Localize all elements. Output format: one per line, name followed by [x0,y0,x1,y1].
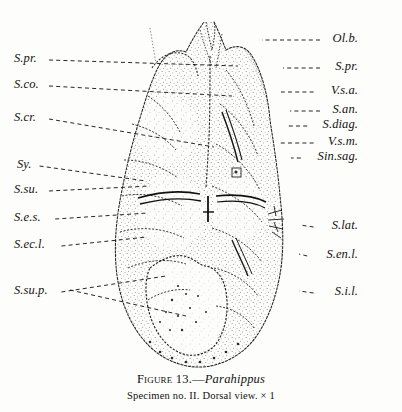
label-s-an: S.an. [0,102,358,117]
label-s-i-l: S.i.l. [0,284,358,299]
label-ol-b: Ol.b. [0,31,358,46]
label-s-diag: S.diag. [0,117,358,132]
label-sin-sag: Sin.sag. [0,149,358,164]
caption-line-secondary: Specimen no. II. Dorsal view. × 1 [0,390,402,401]
figure-caption: Figure 13.—Parahippus Specimen no. II. D… [0,372,402,401]
caption-dash: — [192,372,205,386]
label-v-s-m: V.s.m. [0,134,358,149]
caption-taxon-name: Parahippus [205,372,265,386]
label-s-en-l: S.en.l. [0,247,358,262]
label-s-lat: S.lat. [0,218,358,233]
caption-figure-number: Figure 13. [137,372,192,386]
label-v-s-a: V.s.a. [0,83,358,98]
caption-line-primary: Figure 13.—Parahippus [0,372,402,387]
label-s-su: S.su. [14,182,38,197]
label-s-pr: S.pr. [0,59,358,74]
